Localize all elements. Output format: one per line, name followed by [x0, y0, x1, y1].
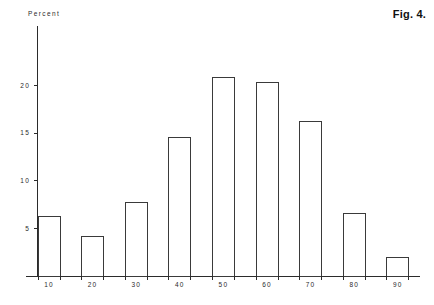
x-tick-label: 90 — [393, 281, 403, 288]
y-tick-label: 10 — [20, 177, 30, 184]
bar — [169, 138, 191, 276]
y-tick-label: 15 — [20, 129, 30, 136]
bar — [343, 213, 365, 276]
bar — [387, 258, 409, 276]
x-tick-label: 30 — [131, 281, 141, 288]
y-tick-label: 20 — [20, 82, 30, 89]
x-tick-label: 10 — [44, 281, 54, 288]
bar — [82, 237, 104, 276]
bar — [212, 78, 234, 276]
x-ticks-group: 102030405060708090 — [38, 276, 409, 288]
bar — [125, 203, 147, 276]
bar — [256, 83, 278, 276]
figure-root: Fig. 4. Percent 5101520 1020304050607080… — [0, 0, 434, 305]
x-tick-label: 50 — [219, 281, 229, 288]
y-ticks-group: 5101520 — [20, 82, 37, 232]
x-tick-label: 60 — [262, 281, 272, 288]
bar — [38, 217, 60, 276]
bar-chart-plot: 5101520 102030405060708090 — [0, 0, 434, 305]
x-tick-label: 80 — [349, 281, 359, 288]
x-tick-label: 40 — [175, 281, 185, 288]
bar — [300, 122, 322, 276]
y-tick-label: 5 — [25, 225, 30, 232]
x-tick-label: 70 — [306, 281, 316, 288]
bars-group — [38, 78, 409, 276]
x-tick-label: 20 — [88, 281, 98, 288]
